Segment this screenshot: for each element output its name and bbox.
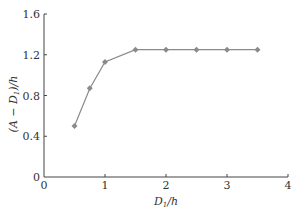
y-tick-label: 0 [33, 171, 40, 184]
diamond-marker-icon [87, 85, 93, 91]
axes [44, 14, 288, 177]
diamond-marker-icon [224, 47, 230, 53]
y-axis-label: (A − D1)/h [7, 76, 21, 133]
x-tick-label: 0 [41, 179, 48, 192]
ticks: 0123400.40.81.21.6 [23, 8, 292, 192]
diamond-marker-icon [255, 47, 261, 53]
line-chart: 0123400.40.81.21.6 D1/h (A − D1)/h [0, 0, 302, 218]
y-tick-label: 0.4 [23, 130, 41, 143]
diamond-marker-icon [194, 47, 200, 53]
y-tick-label: 1.6 [23, 8, 41, 21]
y-tick-label: 1.2 [23, 49, 41, 62]
x-tick-label: 2 [163, 179, 170, 192]
diamond-marker-icon [163, 47, 169, 53]
x-tick-label: 1 [102, 179, 109, 192]
diamond-marker-icon [72, 123, 78, 129]
x-tick-label: 3 [224, 179, 231, 192]
y-tick-label: 0.8 [23, 90, 41, 103]
series-line [75, 50, 258, 126]
diamond-marker-icon [133, 47, 139, 53]
diamond-marker-icon [102, 59, 108, 65]
data-series [72, 47, 261, 129]
x-axis-label: D1/h [153, 195, 178, 209]
x-tick-label: 4 [285, 179, 292, 192]
